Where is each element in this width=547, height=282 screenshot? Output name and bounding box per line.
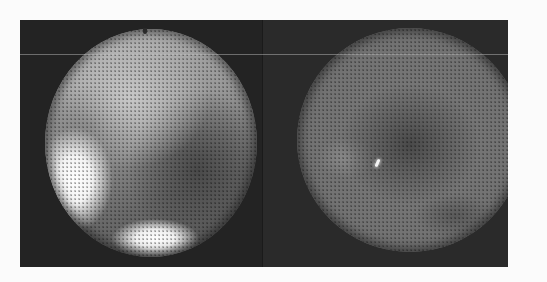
right-fiberscope-view: Circular fiberscope view, uniformly gray… <box>297 28 508 252</box>
scope-notch-marker <box>143 28 147 34</box>
left-fiberscope-view: Circular fiberscope view with bright whi… <box>45 29 257 257</box>
right-panel: Circular fiberscope view, uniformly gray… <box>263 20 508 267</box>
image-frame: Circular fiberscope view with bright whi… <box>20 20 508 267</box>
left-panel: Circular fiberscope view with bright whi… <box>20 20 263 267</box>
right-panel-description: Circular fiberscope view, uniformly gray… <box>297 28 298 29</box>
scan-line-artifact <box>20 54 508 55</box>
left-panel-description: Circular fiberscope view with bright whi… <box>45 29 46 30</box>
